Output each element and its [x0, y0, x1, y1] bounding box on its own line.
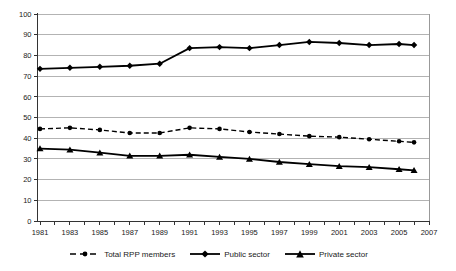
circle-marker [157, 131, 162, 136]
series-total-rpp-members [38, 126, 417, 145]
x-tick-label: 1997 [271, 228, 288, 237]
circle-marker [412, 140, 417, 145]
diamond-marker [186, 45, 192, 51]
legend-label-public-sector: Public sector [224, 250, 270, 259]
dashed-line-circle-marker-icon [70, 249, 100, 259]
diamond-marker [67, 65, 73, 71]
circle-marker [397, 139, 402, 144]
x-tick-label: 1985 [92, 228, 109, 237]
diamond-marker [127, 63, 133, 69]
y-tick-label: 40 [23, 134, 31, 143]
circle-marker [247, 130, 252, 135]
y-tick-label: 20 [23, 175, 31, 184]
circle-marker [367, 137, 372, 142]
x-tick-label: 1989 [151, 228, 168, 237]
y-tick-label: 60 [23, 93, 31, 102]
x-tick-label: 1993 [211, 228, 228, 237]
plot-area: 0102030405060708090100198119831985198719… [0, 0, 456, 246]
circle-marker [68, 126, 73, 131]
y-tick-label: 0 [27, 217, 31, 226]
x-tick-label: 2007 [421, 228, 438, 237]
solid-line-triangle-marker-icon [285, 249, 315, 259]
x-tick-label: 1987 [121, 228, 138, 237]
x-tick-label: 1981 [32, 228, 49, 237]
legend-item-public-sector: Public sector [190, 249, 270, 259]
x-tick-label: 1991 [181, 228, 198, 237]
x-tick-label: 1999 [301, 228, 318, 237]
diamond-marker [97, 64, 103, 70]
y-tick-label: 30 [23, 155, 31, 164]
y-axis-ticks: 0102030405060708090100 [19, 10, 38, 226]
gridlines [38, 14, 430, 200]
diamond-marker [366, 42, 372, 48]
diamond-marker [276, 42, 282, 48]
y-tick-label: 70 [23, 72, 31, 81]
diamond-marker [396, 41, 402, 47]
legend: Total RPP members Public sector Private … [0, 246, 447, 262]
x-tick-label: 2001 [331, 228, 348, 237]
diamond-marker [156, 60, 162, 66]
legend-item-total-rpp-members: Total RPP members [70, 249, 175, 259]
solid-line-diamond-marker-icon [190, 249, 220, 259]
circle-marker [277, 132, 282, 137]
x-tick-label: 1983 [62, 228, 79, 237]
x-tick-label: 2005 [391, 228, 408, 237]
diamond-marker [306, 39, 312, 45]
x-tick-label: 1995 [241, 228, 258, 237]
x-axis-ticks: 1981198319851987198919911993199519971999… [32, 221, 438, 237]
circle-marker [98, 128, 103, 133]
legend-label-private-sector: Private sector [319, 250, 368, 259]
y-tick-label: 50 [23, 113, 31, 122]
rpp-coverage-chart: 0102030405060708090100198119831985198719… [0, 0, 456, 271]
y-tick-label: 80 [23, 51, 31, 60]
y-tick-label: 10 [23, 196, 31, 205]
circle-marker [217, 127, 222, 132]
diamond-marker [246, 45, 252, 51]
diamond-marker [411, 42, 417, 48]
circle-marker [187, 126, 192, 131]
y-tick-label: 100 [19, 10, 32, 19]
circle-marker [127, 131, 132, 136]
diamond-marker [216, 44, 222, 50]
circle-marker [307, 134, 312, 139]
x-tick-label: 2003 [361, 228, 378, 237]
legend-label-total-rpp-members: Total RPP members [104, 250, 175, 259]
legend-item-private-sector: Private sector [285, 249, 368, 259]
y-tick-label: 90 [23, 30, 31, 39]
series-line-total-rpp-members [40, 128, 414, 142]
diamond-marker [336, 40, 342, 46]
circle-marker [38, 127, 43, 132]
circle-marker [337, 135, 342, 140]
series-line-private-sector [40, 149, 414, 171]
